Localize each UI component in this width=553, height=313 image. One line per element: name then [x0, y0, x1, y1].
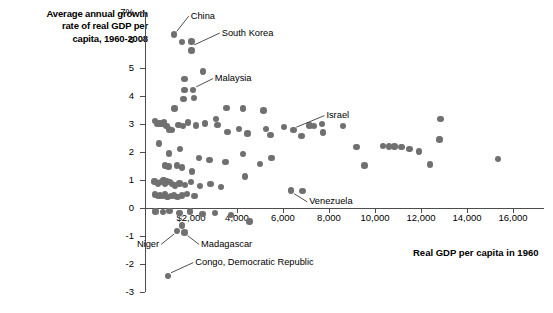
annotation-label: China — [191, 11, 215, 21]
annotation-label: Congo, Democratic Republic — [195, 257, 313, 267]
x-axis-title: Real GDP per capita in 1960 — [413, 247, 539, 258]
annotation-label: Madagascar — [201, 239, 252, 249]
annotation-label: South Korea — [222, 28, 274, 38]
annotation-label: Malaysia — [215, 73, 252, 83]
annotation-label: Israel — [326, 110, 349, 120]
scatter-chart: Average annual growth rate of real GDP p… — [0, 0, 553, 313]
annotation-label: Niger — [137, 239, 159, 249]
annotation-label: Venezuela — [309, 196, 352, 206]
